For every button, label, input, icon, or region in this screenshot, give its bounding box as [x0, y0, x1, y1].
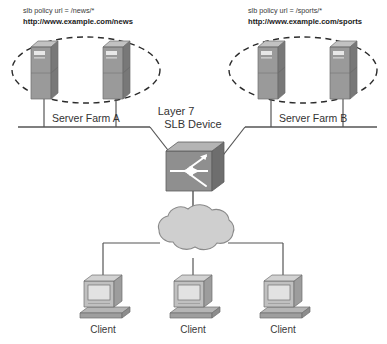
client-1-group: Client: [80, 275, 130, 335]
left-policy-text: slb policy url = /news/*: [23, 6, 95, 15]
right-farm-label: Server Farm B: [279, 112, 347, 124]
client-2-group: Client: [170, 275, 220, 335]
client-3-label: Client: [270, 324, 296, 335]
right-policy-url: http://www.example.com/sports: [248, 17, 362, 26]
slb-device-group: Layer 7 SLB Device: [158, 105, 224, 191]
right-server-farm-group: slb policy url = /sports/* http://www.ex…: [229, 6, 377, 127]
client-1-label: Client: [90, 324, 116, 335]
switch-icon: [166, 142, 224, 191]
client-2-label: Client: [180, 324, 206, 335]
server-icon-a2: [103, 41, 130, 99]
left-server-farm-group: slb policy url = /news/* http://www.exam…: [12, 6, 160, 127]
slb-device-label-line2: SLB Device: [164, 118, 221, 130]
workstation-icon: [170, 275, 220, 318]
workstation-icon: [80, 275, 130, 318]
left-policy-url: http://www.example.com/news: [23, 17, 133, 26]
slb-device-label-line1: Layer 7: [158, 105, 195, 117]
client-3-group: Client: [260, 275, 310, 335]
server-icon-a1: [31, 41, 58, 99]
server-icon-b1: [258, 41, 285, 99]
right-policy-text: slb policy url = /sports/*: [248, 6, 322, 15]
cloud-icon: [158, 205, 233, 250]
workstation-icon: [260, 275, 310, 318]
network-topology-diagram: slb policy url = /news/* http://www.exam…: [0, 0, 387, 344]
left-farm-label: Server Farm A: [52, 112, 120, 124]
server-icon-b2: [330, 41, 357, 99]
